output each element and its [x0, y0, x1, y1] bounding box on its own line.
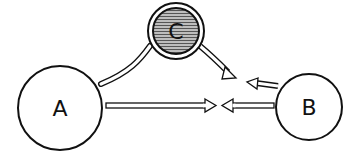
- node-c: C: [148, 3, 204, 59]
- arrow-b-to-center: [247, 78, 278, 89]
- arrow-c-to-center: [200, 46, 236, 79]
- node-a: A: [18, 66, 102, 150]
- arrow-a-to-b: [106, 99, 216, 112]
- node-b: B: [276, 74, 342, 140]
- node-a-label: A: [52, 96, 67, 121]
- arrow-b-to-a: [222, 99, 274, 112]
- node-c-label: C: [168, 19, 183, 44]
- diagram-canvas: C A B: [0, 0, 352, 159]
- node-b-label: B: [301, 95, 316, 120]
- channel-a-to-c: [101, 46, 150, 84]
